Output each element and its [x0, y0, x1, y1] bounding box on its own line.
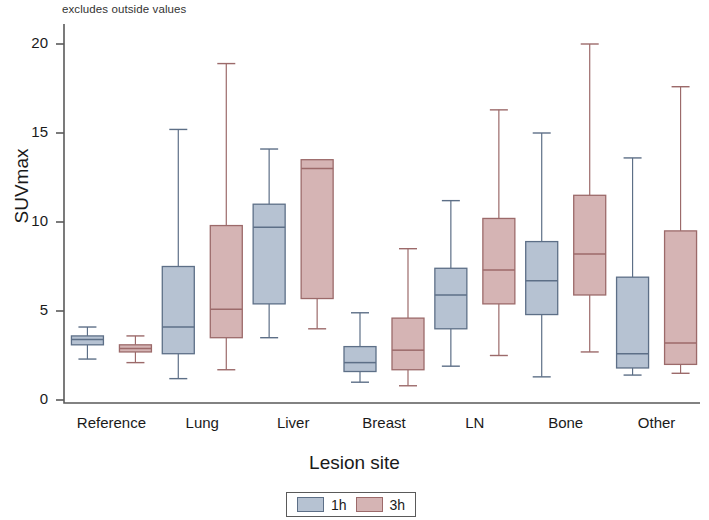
plot-area [0, 0, 709, 520]
boxplot-box [71, 327, 103, 359]
y-tick-label: 15 [22, 123, 48, 140]
y-tick-label: 10 [22, 212, 48, 229]
boxplot-box [210, 64, 242, 370]
boxplot-figure: excludes outside values SUVmax 05101520 … [0, 0, 709, 520]
boxplot-box [526, 133, 558, 377]
boxplot-box [617, 158, 649, 375]
boxplot-box [392, 249, 424, 386]
legend-swatch-1h [297, 497, 324, 512]
boxplot-box [162, 129, 194, 378]
boxplot-box [301, 160, 333, 329]
boxplot-box [119, 336, 151, 363]
x-tick-label: Other [597, 414, 709, 431]
legend-swatch-3h [356, 497, 383, 512]
boxplot-box [253, 149, 285, 338]
legend-entry-3h: 3h [356, 497, 406, 513]
x-axis-label: Lesion site [0, 452, 709, 474]
boxplot-box [574, 44, 606, 352]
boxplot-box [435, 201, 467, 367]
boxplot-box [665, 87, 697, 374]
y-tick-label: 5 [22, 301, 48, 318]
legend-label-1h: 1h [331, 497, 347, 513]
boxplot-box [344, 313, 376, 382]
legend: 1h 3h [286, 492, 416, 517]
y-tick-label: 20 [22, 34, 48, 51]
boxplot-box [483, 110, 515, 356]
legend-entry-1h: 1h [297, 497, 347, 513]
y-tick-label: 0 [22, 390, 48, 407]
legend-label-3h: 3h [390, 497, 406, 513]
